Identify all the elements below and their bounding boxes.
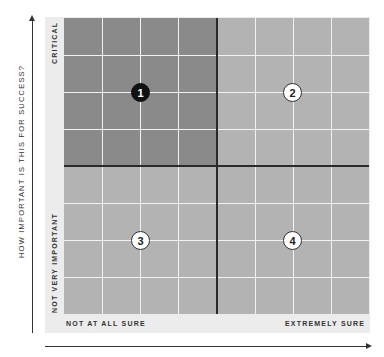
quadrant-4-marker: 4 xyxy=(283,231,302,250)
arrow-right-icon xyxy=(366,343,372,349)
x-axis-line xyxy=(45,346,367,347)
x-axis-right-label: EXTREMELY SURE xyxy=(285,320,365,327)
y-axis-top-label: CRITICAL xyxy=(51,22,58,64)
x-axis-left-label: NOT AT ALL SURE xyxy=(66,320,146,327)
quadrant-1-marker: 1 xyxy=(131,83,150,102)
quadrant-3-marker: 3 xyxy=(131,231,150,250)
y-axis-title: HOW IMPORTANT IS THIS FOR SUCCESS? xyxy=(17,65,26,258)
y-axis-bottom-label: NOT VERY IMPORTANT xyxy=(51,213,58,313)
arrow-up-icon xyxy=(29,15,35,21)
horizontal-divider xyxy=(64,165,369,167)
y-axis-line xyxy=(32,20,33,333)
quadrant-grid: 1 2 3 4 xyxy=(64,18,369,314)
quadrant-2-marker: 2 xyxy=(283,83,302,102)
